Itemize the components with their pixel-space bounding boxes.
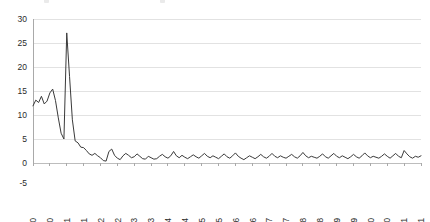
- chart-svg: -5051015202530Mar-90Sep-90Mar-91Sep-91Ma…: [0, 0, 430, 222]
- y-axis-tick-label: 30: [18, 14, 28, 24]
- y-axis-tick-label: 0: [22, 158, 27, 168]
- x-axis-tick-label: Sep-90: [46, 218, 55, 222]
- x-axis-tick-label: Mar-92: [97, 218, 106, 222]
- y-axis-tick-label: 25: [18, 38, 28, 48]
- x-axis-tick-label: Sep-98: [316, 218, 325, 222]
- x-axis-tick-label: Sep-91: [80, 218, 89, 222]
- x-axis-tick-label: Mar-90: [29, 218, 38, 222]
- x-axis-tick-label: Mar-95: [198, 218, 207, 222]
- x-axis-tick-label: Sep-95: [215, 218, 224, 222]
- x-axis-tick-label: Sep-99: [350, 218, 359, 222]
- x-axis-tick-label: Sep-93: [147, 218, 156, 222]
- x-axis-tick-label: Sep-00: [383, 218, 392, 222]
- x-axis-tick-label: Sep-97: [282, 218, 291, 222]
- x-axis-tick-label: Mar-98: [299, 218, 308, 222]
- cropped-title-artifact: [0, 0, 430, 10]
- y-axis-tick-label: 15: [18, 86, 28, 96]
- x-axis-tick-label: Sep-94: [181, 218, 190, 222]
- line-chart: -5051015202530Mar-90Sep-90Mar-91Sep-91Ma…: [0, 0, 430, 222]
- y-axis-tick-label: 10: [18, 110, 28, 120]
- x-axis-tick-label: Mar-94: [164, 218, 173, 222]
- x-axis-tick-label: Sep-01: [417, 218, 426, 222]
- x-axis-tick-label: Sep-96: [249, 218, 258, 222]
- y-axis-tick-label: 20: [18, 62, 28, 72]
- x-axis-tick-label: Mar-91: [63, 218, 72, 222]
- y-axis-tick-label: 5: [22, 134, 27, 144]
- x-axis-tick-label: Mar-93: [130, 218, 139, 222]
- x-axis-tick-label: Mar-00: [367, 218, 376, 222]
- y-axis-tick-label: -5: [19, 178, 27, 188]
- x-axis-tick-label: Mar-96: [232, 218, 241, 222]
- data-series-line: [33, 33, 421, 161]
- x-axis-tick-label: Sep-92: [114, 218, 123, 222]
- x-axis-tick-label: Mar-01: [400, 218, 409, 222]
- x-axis-tick-label: Mar-99: [333, 218, 342, 222]
- x-axis-tick-label: Mar-97: [265, 218, 274, 222]
